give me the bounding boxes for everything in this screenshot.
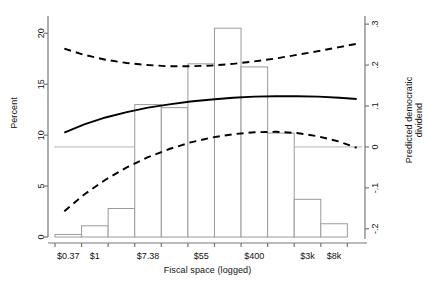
confidence-bound-line	[64, 44, 356, 67]
histogram-bar	[241, 67, 268, 237]
histogram-bar	[135, 105, 162, 237]
histogram-bar	[294, 199, 321, 237]
histogram-bar	[321, 224, 348, 237]
histogram-bar	[268, 133, 295, 237]
y-tick-label-left: 0	[36, 234, 46, 239]
y-tick-label-right: 0	[370, 144, 380, 149]
y-tick-label-left: 20	[36, 28, 46, 38]
y-tick-label-right: -.1	[370, 183, 380, 194]
histogram-bar	[82, 226, 109, 237]
x-tick-label: $400	[244, 251, 264, 261]
y-axis-label-right: Predicted democratic dividend	[404, 60, 424, 180]
y-tick-label-left: 15	[36, 79, 46, 89]
x-tick-label: $0.37	[57, 251, 80, 261]
y-tick-label-left: 10	[36, 130, 46, 140]
histogram-bar	[108, 208, 135, 237]
y-tick-label-right: -.2	[370, 224, 380, 235]
histogram-bar	[161, 108, 188, 237]
histogram-bar	[55, 234, 82, 237]
y-tick-label-right: .2	[370, 61, 380, 69]
y-tick-label-left: 5	[36, 184, 46, 189]
y-tick-label-right: .1	[370, 102, 380, 110]
y-tick-label-right: .3	[370, 20, 380, 28]
histogram-bar	[188, 64, 215, 237]
x-axis-label: Fiscal space (logged)	[0, 265, 415, 275]
x-tick-label: $55	[194, 251, 209, 261]
x-tick-label: $3k	[300, 251, 315, 261]
x-tick-label: $7.38	[137, 251, 160, 261]
x-tick-label: $8k	[327, 251, 342, 261]
histogram-bar	[214, 28, 241, 237]
y-axis-label-left: Percent	[9, 73, 19, 153]
x-tick-label: $1	[90, 251, 100, 261]
